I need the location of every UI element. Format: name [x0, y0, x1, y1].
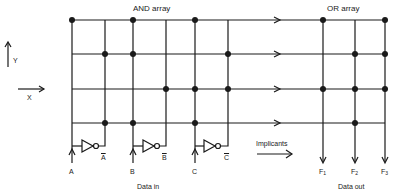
or-array-title: OR array: [327, 5, 359, 13]
inverter-c-icon: [195, 140, 228, 152]
y-axis-label: Y: [13, 57, 18, 64]
pla-diagram: [0, 0, 397, 196]
x-axis-label: X: [27, 94, 32, 101]
output-f2-label: F2: [351, 168, 358, 176]
data-out-label: Data out: [338, 183, 364, 190]
input-a-label: A: [69, 168, 74, 175]
inverter-a-icon: [72, 140, 105, 152]
chevron-right-icons: [274, 17, 280, 126]
y-axis-arrow-icon: [5, 42, 11, 67]
input-c-bar-label: C: [224, 154, 229, 161]
output-f1-label: F1: [319, 168, 326, 176]
output-arrow-icons: [320, 157, 388, 163]
implicants-label: Implicants: [256, 140, 288, 147]
input-a-bar-label: A: [101, 154, 106, 161]
inverter-b-icon: [133, 140, 166, 152]
data-in-label: Data in: [137, 183, 159, 190]
input-c-label: C: [192, 168, 197, 175]
x-axis-arrow-icon: [18, 86, 44, 92]
input-b-bar-label: B: [162, 154, 167, 161]
and-array-title: AND array: [133, 5, 170, 13]
implicants-arrow-icon: [257, 150, 292, 158]
output-f3-label: F3: [381, 168, 388, 176]
input-b-label: B: [130, 168, 135, 175]
